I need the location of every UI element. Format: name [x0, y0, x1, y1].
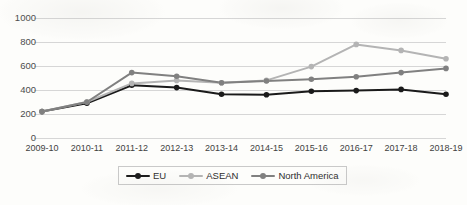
data-point-north-america-2011-12	[129, 70, 135, 76]
data-point-eu-2018-19	[443, 91, 449, 97]
x-tick-label-2009-10: 2009-10	[20, 143, 64, 153]
legend-marker-icon	[179, 171, 203, 180]
chart-legend: EUASEANNorth America	[118, 166, 347, 185]
data-point-asean-2015-16	[309, 64, 315, 70]
x-tick-label-2015-16: 2015-16	[289, 143, 333, 153]
y-tick-label-600: 600	[0, 61, 36, 71]
data-point-north-america-2014-15	[264, 78, 270, 84]
data-point-north-america-2017-18	[398, 70, 404, 76]
y-tick-label-1000: 1000	[0, 13, 36, 23]
x-tick-label-2012-13: 2012-13	[155, 143, 199, 153]
legend-label: North America	[278, 170, 338, 181]
data-point-north-america-2016-17	[353, 74, 359, 80]
x-tick-label-2017-18: 2017-18	[379, 143, 423, 153]
x-tick-label-2011-12: 2011-12	[110, 143, 154, 153]
y-tick-label-0: 0	[0, 133, 36, 143]
data-point-eu-2015-16	[309, 88, 315, 94]
data-point-asean-2016-17	[353, 42, 359, 48]
x-tick-label-2013-14: 2013-14	[200, 143, 244, 153]
data-point-north-america-2009-10	[39, 109, 45, 115]
legend-item-asean[interactable]: ASEAN	[179, 170, 238, 181]
legend-marker-icon	[251, 171, 275, 180]
legend-marker-icon	[126, 171, 150, 180]
legend-dot	[260, 173, 266, 179]
legend-label: EU	[153, 170, 166, 181]
data-point-eu-2013-14	[219, 91, 225, 97]
series-line-asean	[42, 44, 446, 111]
legend-dot	[188, 173, 194, 179]
data-point-asean-2018-19	[443, 56, 449, 62]
data-point-north-america-2013-14	[219, 80, 225, 86]
series-line-eu	[42, 85, 446, 111]
legend-item-north-america[interactable]: North America	[251, 170, 338, 181]
data-point-north-america-2015-16	[309, 76, 315, 82]
data-point-eu-2012-13	[174, 85, 180, 91]
data-point-north-america-2018-19	[443, 66, 449, 72]
data-point-north-america-2012-13	[174, 73, 180, 79]
data-point-asean-2017-18	[398, 48, 404, 54]
y-tick-label-800: 800	[0, 37, 36, 47]
data-point-eu-2017-18	[398, 87, 404, 93]
data-point-eu-2016-17	[353, 88, 359, 94]
y-tick-label-400: 400	[0, 85, 36, 95]
data-point-asean-2011-12	[129, 81, 135, 87]
legend-dot	[135, 173, 141, 179]
x-tick-label-2018-19: 2018-19	[424, 143, 467, 153]
legend-label: ASEAN	[206, 170, 238, 181]
data-point-eu-2014-15	[264, 92, 270, 98]
x-tick-label-2014-15: 2014-15	[244, 143, 288, 153]
x-tick-label-2010-11: 2010-11	[65, 143, 109, 153]
data-point-north-america-2010-11	[84, 99, 90, 105]
x-tick-label-2016-17: 2016-17	[334, 143, 378, 153]
legend-item-eu[interactable]: EU	[126, 170, 166, 181]
y-tick-label-200: 200	[0, 109, 36, 119]
